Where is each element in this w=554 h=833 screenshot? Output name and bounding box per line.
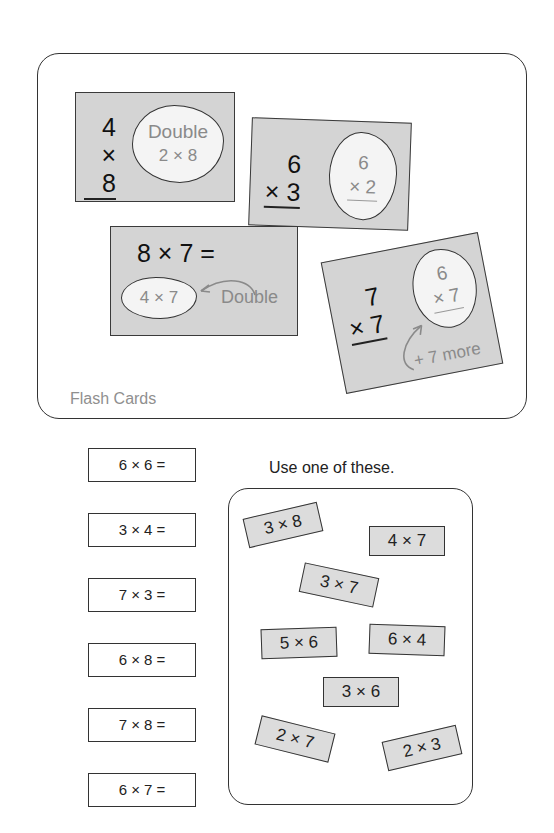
- fact-box[interactable]: 6 × 7 =: [88, 773, 196, 807]
- top-number: 4: [84, 113, 116, 141]
- flash-card-6x3[interactable]: 6 × 3 6 × 2: [248, 117, 412, 231]
- problem-stack: 6 × 3: [264, 149, 302, 209]
- top-number: 6: [265, 149, 302, 178]
- fact-box[interactable]: 6 × 6 =: [88, 448, 196, 482]
- choice-chip[interactable]: 6 × 4: [368, 624, 445, 657]
- hint-cloud: 6 × 2: [327, 131, 398, 221]
- instruction: Use one of these.: [269, 459, 394, 477]
- bottom-number: × 8: [84, 141, 116, 200]
- flash-card-8x7[interactable]: 8 × 7 = 4 × 7 Double: [110, 226, 298, 336]
- choice-chip[interactable]: 4 × 7: [369, 526, 445, 556]
- fact-box[interactable]: 3 × 4 =: [88, 513, 196, 547]
- equation: 8 × 7 =: [137, 239, 215, 268]
- fact-box[interactable]: 7 × 8 =: [88, 708, 196, 742]
- problem-stack: 7 × 7: [341, 281, 388, 346]
- panel-title: Flash Cards: [70, 390, 156, 408]
- hint-bottom: × 7: [429, 282, 464, 313]
- hint-cloud: 6 × 7: [406, 243, 484, 334]
- flash-card-4x8[interactable]: 4 × 8 Double 2 × 8: [75, 92, 235, 202]
- choice-chip[interactable]: 5 × 6: [260, 627, 337, 660]
- fact-box[interactable]: 6 × 8 =: [88, 643, 196, 677]
- problem-stack: 4 × 8: [84, 113, 116, 200]
- annotation: Double: [221, 287, 278, 308]
- fact-box[interactable]: 7 × 3 =: [88, 578, 196, 612]
- bottom-number: × 3: [264, 177, 301, 209]
- hint-cloud: Double 2 × 8: [132, 105, 224, 183]
- hint-line-2: 2 × 8: [133, 144, 223, 168]
- hint-top: 6: [330, 150, 397, 176]
- hint-line-1: Double: [133, 120, 223, 144]
- hint-bottom: × 2: [347, 175, 379, 202]
- choice-chip[interactable]: 3 × 6: [323, 677, 399, 707]
- hint-cloud: 4 × 7: [121, 277, 197, 319]
- bottom-number: × 7: [346, 309, 387, 346]
